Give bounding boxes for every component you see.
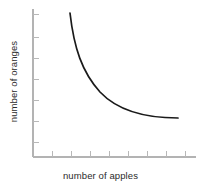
x-axis-label: number of apples <box>0 170 201 181</box>
y-axis-ticks <box>33 14 39 142</box>
axis-lines <box>33 9 196 157</box>
chart-figure: number of oranges number of apples <box>0 0 201 190</box>
y-axis-label: number of oranges <box>8 17 19 147</box>
plot-area <box>0 0 201 190</box>
x-axis-ticks <box>52 151 185 157</box>
data-curve <box>70 13 178 118</box>
